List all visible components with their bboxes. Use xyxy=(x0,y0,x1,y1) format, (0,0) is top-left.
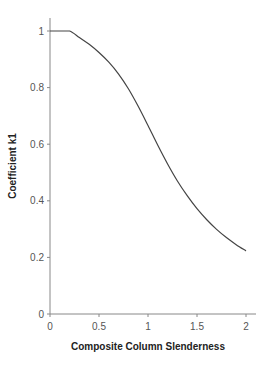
k1-curve xyxy=(50,31,246,251)
y-axis-title: Coefficient k1 xyxy=(7,133,18,199)
x-tick-label: 0.5 xyxy=(92,321,106,332)
plot-area: 00.20.40.60.81 00.511.52 xyxy=(30,18,256,332)
x-tick-label: 1 xyxy=(145,321,151,332)
x-axis-title: Composite Column Slenderness xyxy=(71,341,225,352)
x-tick-label: 2 xyxy=(243,321,249,332)
x-tick-label: 0 xyxy=(47,321,53,332)
y-tick-label: 0.6 xyxy=(30,139,44,150)
y-tick-label: 0.4 xyxy=(30,195,44,206)
y-axis-ticks: 00.20.40.60.81 xyxy=(30,26,50,320)
y-tick-label: 0.2 xyxy=(30,252,44,263)
x-axis-ticks: 00.511.52 xyxy=(47,314,249,332)
y-tick-label: 0 xyxy=(38,309,44,320)
y-tick-label: 0.8 xyxy=(30,82,44,93)
line-chart: 00.20.40.60.81 00.511.52 Composite Colum… xyxy=(0,0,270,368)
x-tick-label: 1.5 xyxy=(190,321,204,332)
y-tick-label: 1 xyxy=(38,26,44,37)
